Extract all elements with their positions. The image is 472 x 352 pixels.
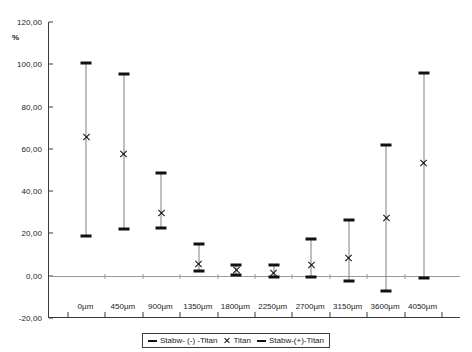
data-point-marker — [157, 209, 166, 218]
error-bar-upper-cap — [156, 172, 167, 175]
error-bar-line — [311, 239, 312, 277]
x-tick-label: 1350µm — [183, 302, 212, 311]
error-bar-lower-cap — [193, 270, 204, 273]
error-bar-upper-cap — [343, 218, 354, 221]
error-bar-lower-cap — [343, 280, 354, 283]
x-tick-label: 3150µm — [333, 302, 362, 311]
data-point-marker — [194, 260, 203, 269]
legend-item-label: Stabw- (-) -Titan — [160, 336, 218, 345]
error-bar-line — [86, 63, 87, 235]
error-bar-line — [161, 173, 162, 228]
y-tick-label: 60,00 — [21, 144, 49, 153]
legend-dash-marker-icon — [257, 340, 266, 342]
error-bar-lower-cap — [118, 228, 129, 231]
x-tick-label: 2250µm — [258, 302, 287, 311]
legend-item: Titan — [223, 336, 251, 345]
legend-item-label: Stabw-(+)-Titan — [269, 336, 324, 345]
error-bar-upper-cap — [268, 264, 279, 267]
data-point-marker — [82, 133, 91, 142]
error-bar-upper-cap — [81, 62, 92, 65]
x-tick-label: 900µm — [148, 302, 173, 311]
data-point-marker — [232, 266, 241, 275]
y-tick-mark — [49, 318, 53, 319]
y-tick-label: 20,00 — [21, 229, 49, 238]
x-tick-label: 0µm — [78, 302, 94, 311]
error-bar-line — [348, 220, 349, 281]
error-bar-lower-cap — [156, 227, 167, 230]
x-tick-label: 1800µm — [221, 302, 250, 311]
legend-item: Stabw-(+)-Titan — [257, 336, 324, 345]
error-bar-upper-cap — [381, 143, 392, 146]
error-bar-lower-cap — [81, 234, 92, 237]
legend-item: Stabw- (-) -Titan — [148, 336, 218, 345]
plot-area: 120,00100,0080,0060,0040,0020,000,00-20,… — [48, 22, 460, 318]
y-tick-label: -20,00 — [19, 314, 49, 323]
y-tick-label: 120,00 — [17, 18, 49, 27]
y-axis-unit-label: % — [12, 33, 19, 42]
error-bar-lower-cap — [381, 289, 392, 292]
x-tick-label: 2700µm — [296, 302, 325, 311]
legend-x-marker-icon — [223, 337, 230, 344]
data-point-marker — [419, 158, 428, 167]
error-bar-lower-cap — [418, 276, 429, 279]
data-point-marker — [344, 253, 353, 262]
chart-container: % 120,00100,0080,0060,0040,0020,000,00-2… — [0, 0, 472, 352]
y-tick-label: 80,00 — [21, 102, 49, 111]
legend-item-label: Titan — [233, 336, 251, 345]
x-tick-label: 450µm — [111, 302, 136, 311]
chart-legend: Stabw- (-) -TitanTitanStabw-(+)-Titan — [142, 333, 330, 348]
series-marks — [49, 22, 460, 317]
error-bar-upper-cap — [193, 243, 204, 246]
data-point-marker — [119, 150, 128, 159]
error-bar-upper-cap — [306, 237, 317, 240]
legend-dash-marker-icon — [148, 340, 157, 342]
x-tick-label: 3600µm — [371, 302, 400, 311]
error-bar-upper-cap — [418, 71, 429, 74]
error-bar-lower-cap — [306, 275, 317, 278]
y-tick-label: 100,00 — [17, 60, 49, 69]
error-bar-line — [423, 73, 424, 278]
x-tick-label: 4050µm — [408, 302, 437, 311]
error-bar-upper-cap — [118, 72, 129, 75]
data-point-marker — [269, 268, 278, 277]
data-point-marker — [382, 213, 391, 222]
y-tick-label: 40,00 — [21, 187, 49, 196]
y-tick-label: 0,00 — [26, 271, 49, 280]
data-point-marker — [307, 261, 316, 270]
